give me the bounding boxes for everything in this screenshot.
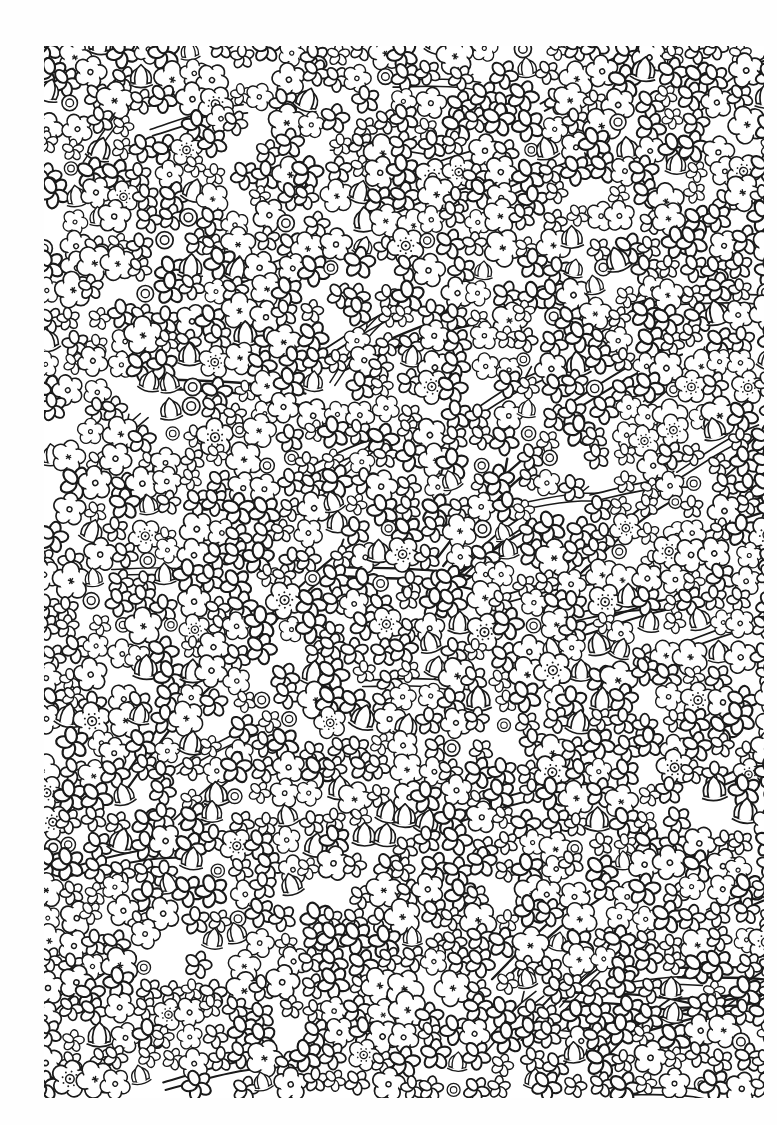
floral-pattern-svg: [44, 46, 764, 1098]
coloring-page: [0, 0, 777, 1125]
floral-pattern-artwork: [44, 46, 764, 1098]
